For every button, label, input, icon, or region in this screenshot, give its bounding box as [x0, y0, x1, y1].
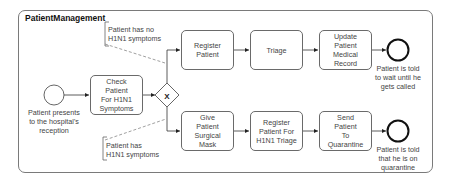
svg-text:X: X [164, 92, 170, 101]
task-update-medical-record[interactable]: Update Patient Medical Record [319, 30, 372, 70]
start-event-label: Patient presents to the hospital's recep… [22, 108, 86, 136]
end-event-quarantine-label: Patient is told that he is on quarantine [368, 145, 428, 173]
association-no-symptoms [105, 44, 165, 63]
annotation-no-symptoms: Patient has no H1N1 symptoms [108, 25, 161, 43]
association-has-symptoms [105, 119, 166, 140]
start-event[interactable] [44, 85, 64, 105]
exclusive-gateway[interactable]: X [155, 83, 179, 107]
flow-gateway-to-register [167, 50, 180, 83]
task-send-to-quarantine[interactable]: Send Patient To Quarantine [319, 111, 372, 151]
flow-gateway-to-give-mask [167, 107, 180, 131]
task-triage[interactable]: Triage [250, 30, 303, 70]
end-event-quarantine[interactable] [388, 121, 409, 142]
task-check-patient[interactable]: Check Patient For H1N1 Symptoms [90, 75, 143, 115]
end-event-wait[interactable] [388, 40, 409, 61]
task-give-surgical-mask[interactable]: Give Patient Surgical Mask [181, 111, 234, 151]
task-register-patient[interactable]: Register Patient [181, 30, 234, 70]
annotation-has-symptoms: Patient has H1N1 symptoms [106, 141, 159, 159]
task-register-h1n1-triage[interactable]: Register Patient For H1N1 Triage [250, 111, 303, 151]
end-event-wait-label: Patient is told to wait until he gets ca… [368, 64, 428, 92]
